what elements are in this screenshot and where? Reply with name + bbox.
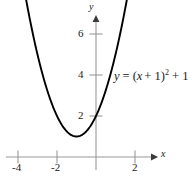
x-tick-label-minus4: -4 (12, 162, 21, 173)
y-tick-label-6: 6 (78, 28, 84, 39)
equation-variable: x (137, 69, 143, 83)
equation-exponent: 2 (165, 68, 169, 77)
x-axis-label: x (161, 149, 165, 159)
x-tick-label-2: 2 (132, 162, 138, 173)
y-tick-label-4: 4 (78, 69, 84, 80)
equation-equals: = (123, 69, 130, 83)
equation-plus-one-outer: + 1 (172, 69, 188, 83)
graph-figure: -4 -2 2 2 4 6 x y y=(x+ 1)2+ 1 (0, 0, 192, 184)
equation-annotation: y=(x+ 1)2+ 1 (114, 70, 188, 83)
y-axis-arrowhead (93, 15, 100, 22)
x-axis-arrowhead (151, 153, 158, 160)
x-tick-label-minus2: -2 (51, 162, 60, 173)
equation-plus-one-inner: + 1 (144, 69, 160, 83)
y-tick-label-2: 2 (78, 110, 84, 121)
equation-lhs: y (114, 69, 120, 83)
parabola-curve-precise (31, 29, 147, 97)
y-axis-label: y (89, 2, 93, 12)
